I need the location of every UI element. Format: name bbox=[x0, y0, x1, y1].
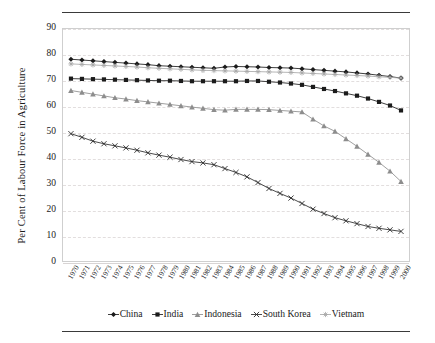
data-point-star bbox=[354, 73, 359, 78]
data-point-diamond bbox=[68, 57, 73, 62]
data-point-square bbox=[344, 91, 348, 95]
data-point-triangle bbox=[310, 116, 316, 121]
data-point-square bbox=[223, 79, 227, 83]
plot-area bbox=[62, 28, 410, 262]
data-point-cross bbox=[354, 221, 359, 226]
data-point-star bbox=[244, 69, 249, 74]
data-point-triangle bbox=[376, 160, 382, 165]
data-point-star bbox=[112, 63, 117, 68]
data-point-square bbox=[366, 96, 370, 100]
data-point-square bbox=[201, 79, 205, 83]
legend-item-indonesia[interactable]: Indonesia bbox=[192, 309, 241, 319]
legend-label: India bbox=[164, 309, 184, 319]
data-point-star bbox=[343, 72, 348, 77]
data-point-square bbox=[245, 79, 249, 83]
y-tick-label-50: 50 bbox=[0, 127, 56, 137]
bottom-rule bbox=[62, 331, 410, 332]
x-axis-tick-labels: 1970197119721973197419751976197719781979… bbox=[62, 264, 410, 304]
data-point-triangle bbox=[68, 88, 74, 93]
data-point-star bbox=[233, 69, 238, 74]
data-point-star bbox=[398, 76, 403, 81]
data-point-square bbox=[155, 312, 159, 316]
series-indonesia bbox=[68, 88, 404, 184]
data-point-star bbox=[123, 64, 128, 69]
data-point-square bbox=[212, 79, 216, 83]
chart-legend: ChinaIndiaIndonesiaSouth KoreaVietnam bbox=[62, 306, 410, 322]
y-tick-label-20: 20 bbox=[0, 205, 56, 215]
legend-marker-star-icon bbox=[320, 310, 329, 319]
data-point-star bbox=[200, 68, 205, 73]
data-point-triangle bbox=[332, 129, 338, 134]
series-line bbox=[71, 79, 401, 111]
data-point-star bbox=[167, 66, 172, 71]
data-point-diamond bbox=[266, 65, 271, 70]
data-point-square bbox=[322, 87, 326, 91]
data-point-square bbox=[234, 79, 238, 83]
data-point-square bbox=[168, 79, 172, 83]
y-tick-label-0: 0 bbox=[0, 257, 56, 267]
data-point-star bbox=[156, 66, 161, 71]
data-point-triangle bbox=[343, 136, 349, 141]
data-point-star bbox=[310, 71, 315, 76]
data-point-diamond bbox=[111, 311, 116, 316]
data-point-square bbox=[289, 81, 293, 85]
data-point-star bbox=[277, 70, 282, 75]
data-point-square bbox=[179, 79, 183, 83]
data-point-cross bbox=[299, 201, 304, 206]
data-point-star bbox=[145, 65, 150, 70]
data-point-square bbox=[146, 78, 150, 82]
legend-marker-square-icon bbox=[152, 310, 161, 319]
legend-label: South Korea bbox=[263, 309, 311, 319]
legend-item-south-korea[interactable]: South Korea bbox=[251, 309, 311, 319]
data-point-star bbox=[68, 61, 73, 66]
legend-label: China bbox=[120, 309, 143, 319]
data-point-square bbox=[267, 80, 271, 84]
data-point-square bbox=[69, 77, 73, 81]
series-line bbox=[71, 91, 401, 182]
y-tick-label-60: 60 bbox=[0, 101, 56, 111]
data-point-square bbox=[102, 77, 106, 81]
y-tick-label-80: 80 bbox=[0, 49, 56, 59]
data-point-star bbox=[79, 62, 84, 67]
legend-item-india[interactable]: India bbox=[152, 309, 184, 319]
data-point-star bbox=[323, 311, 328, 316]
data-point-star bbox=[222, 68, 227, 73]
y-tick-label-90: 90 bbox=[0, 23, 56, 33]
data-point-square bbox=[91, 77, 95, 81]
data-point-square bbox=[113, 78, 117, 82]
legend-item-vietnam[interactable]: Vietnam bbox=[320, 309, 364, 319]
legend-marker-diamond-icon bbox=[108, 310, 117, 319]
data-point-star bbox=[387, 75, 392, 80]
legend-label: Indonesia bbox=[204, 309, 241, 319]
data-point-triangle bbox=[321, 123, 327, 128]
data-point-cross bbox=[310, 207, 315, 212]
top-rule bbox=[62, 12, 410, 13]
data-point-square bbox=[124, 78, 128, 82]
data-point-cross bbox=[222, 166, 227, 171]
data-point-cross bbox=[277, 191, 282, 196]
data-point-star bbox=[266, 69, 271, 74]
data-point-star bbox=[332, 72, 337, 77]
data-point-star bbox=[255, 69, 260, 74]
legend-marker-cross-icon bbox=[251, 310, 260, 319]
data-point-star bbox=[321, 71, 326, 76]
data-point-square bbox=[135, 78, 139, 82]
data-point-cross bbox=[79, 135, 84, 140]
y-tick-label-70: 70 bbox=[0, 75, 56, 85]
data-point-star bbox=[90, 62, 95, 67]
data-point-cross bbox=[321, 211, 326, 216]
data-point-cross bbox=[233, 170, 238, 175]
legend-item-china[interactable]: China bbox=[108, 309, 143, 319]
legend-label: Vietnam bbox=[332, 309, 364, 319]
data-point-diamond bbox=[233, 64, 238, 69]
data-point-triangle bbox=[354, 144, 360, 149]
series-layer bbox=[63, 29, 409, 262]
data-point-triangle bbox=[365, 152, 371, 157]
y-tick-label-10: 10 bbox=[0, 231, 56, 241]
data-point-square bbox=[399, 108, 403, 112]
data-point-square bbox=[300, 83, 304, 87]
series-line bbox=[71, 134, 401, 232]
data-point-star bbox=[299, 70, 304, 75]
data-point-diamond bbox=[255, 64, 260, 69]
data-point-square bbox=[311, 85, 315, 89]
